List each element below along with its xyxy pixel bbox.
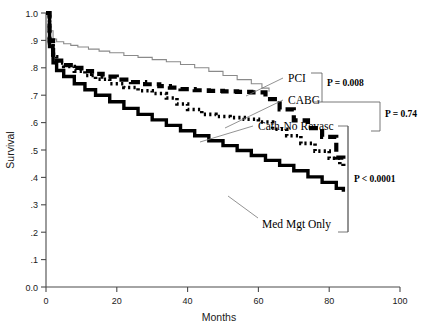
y-tick-label-1.0: 1.0: [25, 9, 38, 19]
y-tick-label-0.5: .5: [30, 146, 38, 156]
y-tick-label-0.6: .6: [30, 118, 38, 128]
x-axis-title: Months: [202, 311, 236, 323]
y-tick-label-0.4: .4: [30, 173, 38, 183]
survival-chart-figure: 1.0 .9 .8 .7 .6 .5 .4 .3 .2 .1 0.0 0 20 …: [0, 0, 443, 332]
x-tick-label-20: 20: [112, 296, 122, 306]
y-tick-label-0.0: 0.0: [25, 283, 38, 293]
x-tick-group: 0 20 40 60 80 100: [43, 287, 407, 306]
series-label-cath-no-revasc: Cath-No Revasc: [258, 120, 334, 132]
pvalue-pci-cabg: P = 0.008: [327, 78, 364, 88]
y-tick-label-0.3: .3: [30, 200, 38, 210]
series-label-cabg: CABG: [288, 94, 320, 106]
y-tick-group: 1.0 .9 .8 .7 .6 .5 .4 .3 .2 .1 0.0: [25, 9, 46, 293]
y-axis-title: Survival: [4, 131, 16, 168]
axis-group: [46, 13, 400, 287]
leader-cath: [200, 126, 253, 142]
x-tick-label-100: 100: [392, 296, 407, 306]
x-tick-label-40: 40: [183, 296, 193, 306]
curve-pci: [46, 13, 269, 92]
y-tick-label-0.7: .7: [30, 91, 38, 101]
y-tick-label-0.9: .9: [30, 36, 38, 46]
series-label-med-mgt-only: Med Mgt Only: [262, 218, 331, 231]
pvalue-revasc-cath: P = 0.74: [385, 109, 417, 119]
x-tick-label-0: 0: [43, 296, 48, 306]
y-tick-label-0.2: .2: [30, 228, 38, 238]
leader-med: [228, 196, 258, 218]
bracket-cath-med: [338, 126, 348, 232]
x-tick-label-60: 60: [253, 296, 263, 306]
plot-canvas: 1.0 .9 .8 .7 .6 .5 .4 .3 .2 .1 0.0 0 20 …: [0, 0, 443, 332]
y-tick-label-0.8: .8: [30, 63, 38, 73]
series-label-pci: PCI: [288, 72, 306, 84]
y-tick-label-0.1: .1: [30, 255, 38, 265]
pvalue-cath-med: P < 0.0001: [354, 174, 396, 184]
x-tick-label-80: 80: [324, 296, 334, 306]
